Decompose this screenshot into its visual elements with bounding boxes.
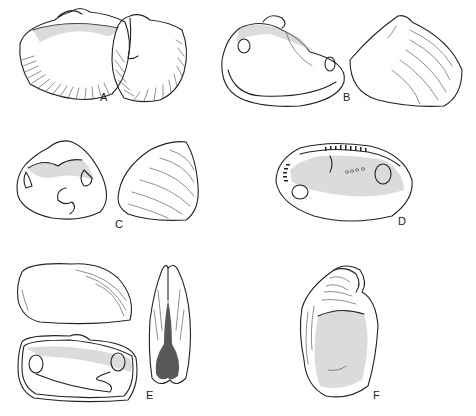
- panel-label-b: B: [343, 92, 350, 103]
- panel-f-oyster-shell: [300, 266, 378, 397]
- panel-label-c: C: [115, 219, 123, 230]
- panel-label-d: D: [398, 216, 406, 227]
- panel-label-f: F: [373, 390, 380, 401]
- panel-e-interior-shell: [18, 335, 137, 402]
- panel-c-exterior-shell: [118, 142, 198, 221]
- shell-drawings: [0, 0, 476, 416]
- bivalve-figure: A B C D E F: [0, 0, 476, 416]
- panel-d-interior-shell: [276, 143, 412, 221]
- panel-b-interior-shell: [222, 16, 345, 107]
- panel-a-interior-shell: [20, 9, 130, 100]
- panel-label-a: A: [100, 92, 107, 103]
- panel-label-e: E: [146, 390, 153, 401]
- panel-c-interior-shell: [17, 141, 107, 219]
- panel-e-exterior-shell: [18, 264, 132, 324]
- panel-e-dorsal-view: [149, 265, 190, 383]
- panel-a-exterior-shell: [112, 15, 187, 102]
- panel-b-exterior-shell: [350, 16, 462, 107]
